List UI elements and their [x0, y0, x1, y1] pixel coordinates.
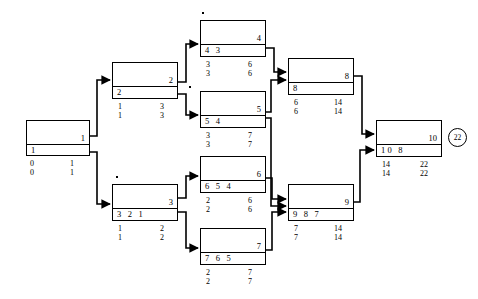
task-node-9-stats: 7 14 7 14 [294, 225, 360, 242]
task-node-5-lft: 7 [248, 141, 252, 150]
task-node-5[interactable]: 5 5 4 [200, 91, 266, 128]
task-node-6-top: 6 [201, 157, 265, 181]
edge-9-to-10 [354, 150, 374, 202]
task-node-2-id: 2 [169, 76, 173, 85]
task-node-8-predecessors: 8 [293, 84, 299, 93]
task-node-1-lft: 1 [70, 169, 74, 178]
task-node-2-stats: 1 3 1 3 [118, 103, 184, 120]
task-node-9-early-row: 7 14 [294, 225, 360, 234]
task-node-3-top: 3 [113, 185, 177, 209]
task-node-5-top: 5 [201, 92, 265, 116]
task-node-8-stats: 6 14 6 14 [294, 99, 360, 116]
project-completion-label: 22 [454, 133, 462, 142]
task-node-9-top: 9 [289, 185, 353, 209]
task-node-5-bottom: 5 4 [201, 116, 265, 127]
task-node-3-id: 3 [169, 198, 173, 207]
task-node-5-late-row: 3 7 [206, 141, 272, 150]
task-node-8-lft: 14 [334, 108, 342, 117]
task-node-2-lst: 1 [118, 112, 122, 121]
task-node-5-predecessors: 5 4 [205, 117, 222, 126]
task-node-3-marker-dot [116, 176, 118, 178]
task-node-4-lft: 6 [248, 70, 252, 79]
task-node-6-lft: 6 [248, 206, 252, 215]
task-node-6-late-row: 2 6 [206, 206, 272, 215]
edge-2-to-4 [178, 44, 198, 82]
task-node-8-top: 8 [289, 59, 353, 83]
task-node-10-top: 10 [377, 121, 441, 145]
task-node-1-bottom: 1 [27, 145, 89, 155]
task-node-4[interactable]: 4 4 3 [200, 20, 266, 57]
task-node-3-early-row: 1 2 [118, 225, 184, 234]
task-node-7-bottom: 7 6 5 [201, 253, 265, 264]
edge-5-to-8 [266, 80, 286, 112]
task-node-2-predecessors: 2 [117, 88, 123, 97]
task-node-7-lst: 2 [206, 278, 210, 287]
task-node-8-bottom: 8 [289, 83, 353, 94]
edge-7-to-9 [266, 212, 286, 250]
task-node-3-stats: 1 2 1 2 [118, 225, 184, 242]
task-node-6[interactable]: 6 6 5 4 [200, 156, 266, 193]
task-node-1-late-row: 0 1 [30, 169, 94, 178]
task-node-4-top: 4 [201, 21, 265, 45]
task-node-6-lst: 2 [206, 206, 210, 215]
task-node-7-id: 7 [257, 242, 261, 251]
task-node-7-top: 7 [201, 229, 265, 253]
project-completion-node[interactable]: 22 [448, 128, 467, 147]
task-node-2-top: 2 [113, 63, 177, 87]
task-node-9-late-row: 7 14 [294, 234, 360, 243]
task-node-4-marker-dot [202, 12, 204, 14]
task-node-10-predecessors: 10 8 [381, 146, 405, 155]
edge-6-to-9 [266, 178, 286, 199]
task-node-2-late-row: 1 3 [118, 112, 184, 121]
task-node-8-early-row: 6 14 [294, 99, 360, 108]
task-node-6-bottom: 6 5 4 [201, 181, 265, 192]
task-node-1-lst: 0 [30, 169, 34, 178]
task-node-7[interactable]: 7 7 6 5 [200, 228, 266, 265]
diagram-canvas: 1 1 0 1 0 1 2 2 1 3 1 3 [0, 0, 478, 299]
task-node-5-lst: 3 [206, 141, 210, 150]
task-node-2-bottom: 2 [113, 87, 177, 98]
task-node-2-early-row: 1 3 [118, 103, 184, 112]
task-node-4-early-row: 3 6 [206, 61, 272, 70]
task-node-10-early-row: 14 22 [382, 161, 448, 170]
task-node-3-bottom: 3 2 1 [113, 209, 177, 220]
task-node-10[interactable]: 10 10 8 [376, 120, 442, 157]
task-node-1-stats: 0 1 0 1 [30, 160, 94, 177]
task-node-10-id: 10 [429, 134, 438, 143]
task-node-7-early-row: 2 7 [206, 269, 272, 278]
task-node-8-id: 8 [345, 72, 349, 81]
task-node-3-lst: 1 [118, 234, 122, 243]
edge-3-to-6 [178, 176, 198, 198]
task-node-7-lft: 7 [248, 278, 252, 287]
task-node-2[interactable]: 2 2 [112, 62, 178, 99]
task-node-3-lft: 2 [160, 234, 164, 243]
task-node-7-late-row: 2 7 [206, 278, 272, 287]
task-node-9-id: 9 [345, 198, 349, 207]
task-node-5-marker-dot [189, 86, 191, 88]
task-node-1-top: 1 [27, 121, 89, 145]
task-node-4-predecessors: 4 3 [205, 46, 222, 55]
task-node-3[interactable]: 3 3 2 1 [112, 184, 178, 221]
task-node-9-lst: 7 [294, 234, 298, 243]
task-node-10-bottom: 10 8 [377, 145, 441, 156]
task-node-9[interactable]: 9 9 8 7 [288, 184, 354, 221]
task-node-5-early-row: 3 7 [206, 132, 272, 141]
task-node-10-stats: 14 22 14 22 [382, 161, 448, 178]
task-node-6-early-row: 2 6 [206, 197, 272, 206]
task-node-7-stats: 2 7 2 7 [206, 269, 272, 286]
task-node-9-bottom: 9 8 7 [289, 209, 353, 220]
task-node-4-lst: 3 [206, 70, 210, 79]
task-node-2-lft: 3 [160, 112, 164, 121]
task-node-7-predecessors: 7 6 5 [205, 254, 233, 263]
task-node-6-predecessors: 6 5 4 [205, 182, 233, 191]
task-node-8-lst: 6 [294, 108, 298, 117]
task-node-4-bottom: 4 3 [201, 45, 265, 56]
task-node-1-id: 1 [81, 134, 85, 143]
edge-1-to-2 [90, 80, 110, 136]
task-node-1-predecessors: 1 [31, 146, 37, 155]
task-node-1-early-row: 0 1 [30, 160, 94, 169]
task-node-6-id: 6 [257, 170, 261, 179]
task-node-8[interactable]: 8 8 [288, 58, 354, 95]
task-node-1[interactable]: 1 1 [26, 120, 90, 156]
task-node-10-lst: 14 [382, 170, 390, 179]
